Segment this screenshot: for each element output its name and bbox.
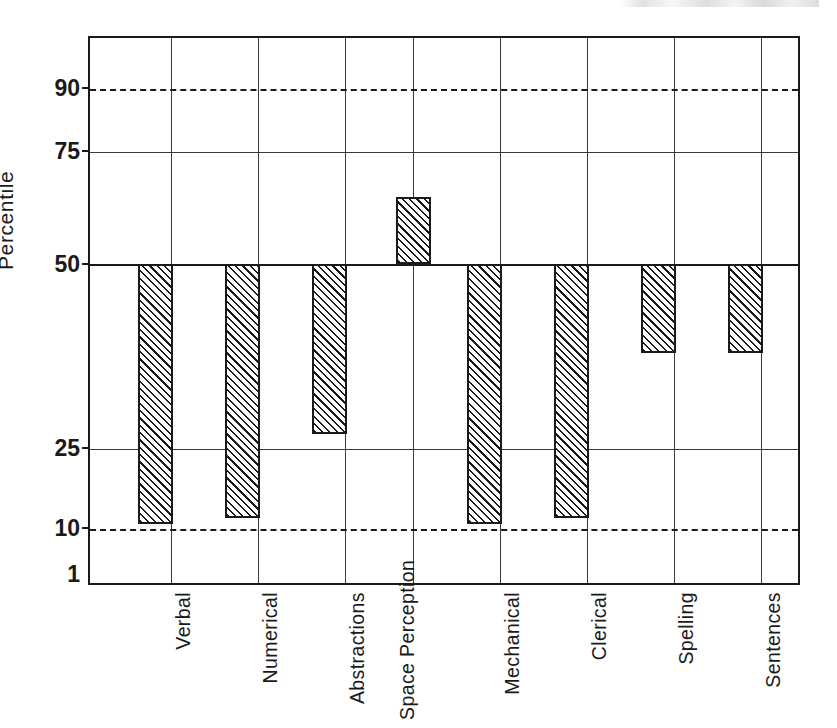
gridline-90 bbox=[90, 89, 798, 91]
scan-artifact bbox=[619, 0, 819, 7]
bar-clerical bbox=[554, 264, 589, 518]
x-label-abstractions: Abstractions bbox=[346, 592, 369, 704]
x-label-spelling: Spelling bbox=[675, 592, 698, 665]
x-label-space-perception-text: Space Perception bbox=[396, 560, 418, 720]
bar-mechanical bbox=[467, 264, 502, 524]
gridline-10 bbox=[90, 529, 798, 531]
y-tick-label-75: 75 bbox=[0, 138, 80, 165]
y-tick-label-90: 90 bbox=[0, 75, 80, 102]
gridline-25 bbox=[90, 449, 798, 450]
plot-area bbox=[88, 36, 800, 585]
bar-abstractions bbox=[312, 264, 347, 434]
x-label-numerical: Numerical bbox=[259, 592, 282, 683]
y-tick-label-1: 1 bbox=[0, 561, 80, 588]
x-label-mechanical: Mechanical bbox=[501, 592, 524, 695]
x-label-space-perception: Space Perception bbox=[396, 592, 418, 720]
gridline-75 bbox=[90, 152, 798, 153]
vertical-gridline bbox=[413, 38, 414, 583]
y-tick-label-50: 50 bbox=[0, 251, 80, 278]
gridline-50-baseline bbox=[90, 264, 798, 266]
bar-verbal bbox=[138, 264, 173, 524]
bar-numerical bbox=[225, 264, 260, 518]
x-label-clerical: Clerical bbox=[588, 592, 611, 660]
chart-figure: Percentile 90 75 50 25 10 1 bbox=[0, 0, 837, 728]
x-label-sentences: Sentences bbox=[762, 592, 785, 688]
bar-space-perception bbox=[396, 197, 431, 264]
y-tick-label-10: 10 bbox=[0, 515, 80, 542]
x-label-verbal: Verbal bbox=[172, 592, 195, 650]
y-tick-label-25: 25 bbox=[0, 435, 80, 462]
bar-spelling bbox=[641, 264, 676, 353]
bar-sentences bbox=[728, 264, 763, 353]
